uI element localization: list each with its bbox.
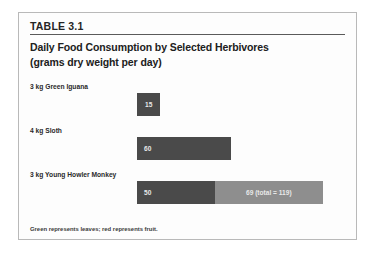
bar-chart: 3 kg Green Iguana154 kg Sloth603 kg Youn… [30,82,345,214]
figure-inner: TABLE 3.1 Daily Food Consumption by Sele… [30,20,345,233]
chart-bar-track: 5069 (total = 119) [137,181,323,204]
figure-title-line-2: (grams dry weight per day) [30,55,345,70]
bar-value-label: 69 (total = 119) [215,181,323,204]
header-divider-rule [30,34,345,35]
chart-row-label: 3 kg Young Howler Monkey [30,170,345,179]
figure-title-line-1: Daily Food Consumption by Selected Herbi… [30,40,345,55]
table-figure-container: TABLE 3.1 Daily Food Consumption by Sele… [18,12,357,240]
bar-value-label: 60 [144,137,151,160]
chart-row: 3 kg Young Howler Monkey5069 (total = 11… [30,170,345,214]
chart-row: 4 kg Sloth60 [30,126,345,170]
bar-value-label: 50 [144,181,151,204]
chart-bar-track: 60 [137,137,231,160]
bar-segment-fruit: 69 (total = 119) [215,181,323,204]
bar-segment-leaves: 60 [137,137,231,160]
chart-row-label: 3 kg Green Iguana [30,82,345,91]
bar-segment-leaves: 50 [137,181,215,204]
table-number-heading: TABLE 3.1 [30,20,345,34]
bar-segment-leaves: 15 [137,93,160,116]
bar-value-label: 15 [137,93,160,116]
chart-row-label: 4 kg Sloth [30,126,345,135]
chart-row: 3 kg Green Iguana15 [30,82,345,126]
chart-bar-track: 15 [137,93,160,116]
chart-footnote: Green represents leaves; red represents … [30,226,158,232]
